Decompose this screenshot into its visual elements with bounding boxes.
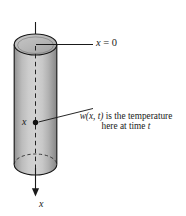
annotation-line-2-prefix: here at time — [102, 121, 148, 131]
annotation-line-1-rest: is the temperature — [103, 111, 172, 121]
point-marker-x — [33, 120, 38, 125]
origin-equals: = — [101, 37, 112, 48]
label-point-x: x — [22, 117, 26, 128]
heat-rod-figure: x = 0 x x w(x, t) is the temperature her… — [0, 0, 186, 216]
label-axis-x: x — [39, 199, 43, 210]
label-x-equals-zero: x = 0 — [96, 37, 117, 48]
figure-canvas — [0, 0, 186, 216]
annotation-temperature: w(x, t) is the temperature here at time … — [68, 111, 184, 131]
annotation-function: w(x, t) — [80, 111, 104, 121]
annotation-line-2: here at time t — [68, 121, 184, 131]
axis-arrowhead-icon — [32, 188, 39, 196]
origin-value: 0 — [112, 37, 117, 48]
annotation-line-1: w(x, t) is the temperature — [68, 111, 184, 121]
annotation-time-variable: t — [148, 121, 151, 131]
